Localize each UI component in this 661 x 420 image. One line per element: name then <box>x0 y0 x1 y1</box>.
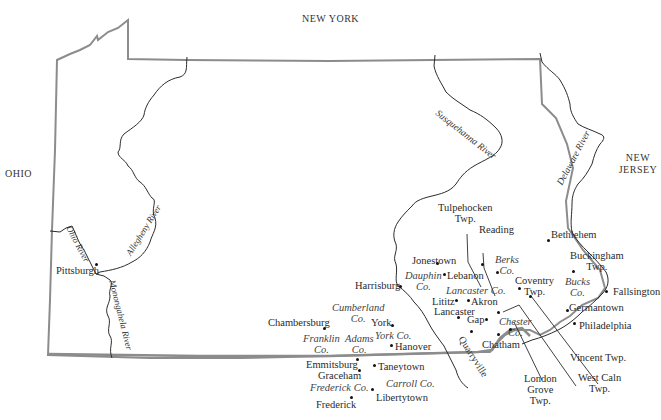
city-dot-akron <box>467 299 470 302</box>
place-label-jonestown[interactable]: Jonestown <box>412 255 456 266</box>
county-label-bucks: Bucks Co. <box>565 276 590 298</box>
county-bucks-line2: Co. <box>565 287 590 298</box>
county-label-berks: Berks Co. <box>495 254 519 276</box>
city-dot-quarryville <box>470 330 473 333</box>
county-label-york: York Co. <box>375 330 411 341</box>
tulpehocken-line1: Tulpehocken <box>438 202 492 213</box>
city-dot-buckingham <box>572 270 575 273</box>
london-grove-line3: Twp. <box>524 395 557 406</box>
city-dot-bethlehem <box>547 239 550 242</box>
city-dot-gap <box>485 318 488 321</box>
city-dot-emmitsburg <box>356 358 359 361</box>
place-label-harrisburg[interactable]: Harrisburg <box>355 280 400 291</box>
place-label-york[interactable]: York <box>371 317 392 328</box>
county-dauphin-line2: Co. <box>405 281 442 292</box>
map-canvas <box>0 0 661 420</box>
pennsylvania-border <box>48 20 605 358</box>
state-label-new-jersey: NEW JERSEY <box>618 152 658 176</box>
london-grove-line2: Grove <box>524 384 557 395</box>
coventry-line1: Coventry <box>515 275 554 286</box>
county-adams-line1: Adams <box>345 333 374 344</box>
city-dot-frederick <box>350 396 353 399</box>
place-label-lebanon[interactable]: Lebanon <box>447 270 484 281</box>
city-dot-graceham <box>358 369 361 372</box>
state-label-new-york: NEW YORK <box>302 13 359 25</box>
county-franklin-line1: Franklin <box>303 333 340 344</box>
place-label-chambersburg[interactable]: Chambersburg <box>268 317 330 328</box>
state-label-new-jersey-line2: JERSEY <box>618 164 658 176</box>
place-label-taneytown[interactable]: Taneytown <box>378 361 425 372</box>
city-dot-lebanon <box>443 273 446 276</box>
county-label-lancaster: Lancaster Co. <box>446 285 506 296</box>
place-label-philadelphia[interactable]: Philadelphia <box>579 320 632 331</box>
city-dot-chester <box>509 328 512 331</box>
place-label-vincent[interactable]: Vincent Twp. <box>570 352 626 363</box>
place-label-chatham[interactable]: Chatham <box>482 339 520 350</box>
place-label-germantown[interactable]: Germantown <box>569 302 624 313</box>
london-grove-line1: London <box>524 373 557 384</box>
county-dauphin-line1: Dauphin <box>405 270 442 281</box>
place-label-hanover[interactable]: Hanover <box>395 341 431 352</box>
tulpehocken-line2: Twp. <box>438 213 492 224</box>
place-label-reading[interactable]: Reading <box>479 224 514 235</box>
state-label-ohio: OHIO <box>5 168 32 180</box>
county-label-adams: Adams Co. <box>345 333 374 355</box>
place-label-frederick[interactable]: Frederick <box>316 399 356 410</box>
state-label-new-jersey-line1: NEW <box>618 152 658 164</box>
county-label-chester: Chester Co. <box>499 316 532 338</box>
county-cumberland-line1: Cumberland <box>332 302 385 313</box>
city-dot-york <box>391 324 394 327</box>
city-dot-taneytown <box>373 364 376 367</box>
place-label-buckingham[interactable]: Buckingham Twp. <box>570 250 624 272</box>
county-label-franklin: Franklin Co. <box>303 333 340 355</box>
city-dot-lancaster <box>457 316 460 319</box>
place-label-west-caln[interactable]: West Caln Twp. <box>578 372 621 394</box>
place-label-libertytown[interactable]: Libertytown <box>376 392 428 403</box>
county-chester-line2: Co. <box>499 327 532 338</box>
city-dot-chambersburg <box>323 327 326 330</box>
place-label-coventry[interactable]: Coventry Twp. <box>515 275 554 297</box>
city-dot-philadelphia <box>573 322 576 325</box>
city-dot-libertytown <box>371 388 374 391</box>
county-label-dauphin: Dauphin Co. <box>405 270 442 292</box>
city-dot-chatham <box>497 333 500 336</box>
county-label-frederick: Frederick Co. <box>310 382 369 393</box>
west-caln-line1: West Caln <box>578 372 621 383</box>
place-label-graceham[interactable]: Graceham <box>318 370 361 381</box>
city-dot-tulpehocken <box>481 263 484 266</box>
county-adams-line2: Co. <box>345 344 374 355</box>
city-dot-fallsington <box>605 290 608 293</box>
city-dot-coventry <box>518 287 521 290</box>
buckingham-line2: Twp. <box>570 261 624 272</box>
county-bucks-line1: Bucks <box>565 276 590 287</box>
county-franklin-line2: Co. <box>303 344 340 355</box>
place-label-bethlehem[interactable]: Bethlehem <box>551 229 597 240</box>
city-dot-hanover <box>390 344 393 347</box>
city-dot-vincent <box>529 295 532 298</box>
place-label-emmitsburg[interactable]: Emmitsburg <box>306 359 358 370</box>
place-label-akron[interactable]: Akron <box>471 296 498 307</box>
city-dot-lititz <box>455 299 458 302</box>
city-dot-jonestown <box>436 262 439 265</box>
place-label-london-grove[interactable]: London Grove Twp. <box>524 373 557 406</box>
west-caln-line2: Twp. <box>578 383 621 394</box>
buckingham-line1: Buckingham <box>570 250 624 261</box>
city-dot-west-caln <box>497 311 500 314</box>
place-label-fallsington[interactable]: Fallsington <box>613 286 660 297</box>
delaware-river <box>522 53 608 344</box>
county-label-carroll: Carroll Co. <box>386 378 435 389</box>
place-label-tulpehocken[interactable]: Tulpehocken Twp. <box>438 202 492 224</box>
place-label-gap[interactable]: Gap <box>467 314 485 325</box>
place-label-pittsburgh[interactable]: Pittsburgh <box>56 265 99 276</box>
county-chester-line1: Chester <box>499 316 532 327</box>
county-berks-line1: Berks <box>495 254 519 265</box>
